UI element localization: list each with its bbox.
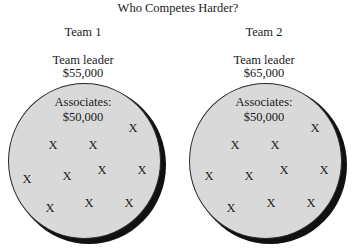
associate-marker: X [45, 202, 54, 214]
associate-marker: X [124, 197, 133, 209]
associate-marker: X [310, 122, 319, 134]
team-2-associates-salary: $50,000 [244, 110, 285, 125]
associate-marker: X [319, 164, 328, 176]
associate-marker: X [270, 139, 279, 151]
associate-marker: X [226, 202, 235, 214]
associate-marker: X [266, 197, 275, 209]
associate-marker: X [306, 197, 315, 209]
associate-marker: X [88, 139, 97, 151]
associate-marker: X [84, 197, 93, 209]
team-2-associates-label: Associates: [236, 95, 293, 110]
team-1-associates-salary: $50,000 [63, 110, 104, 125]
associate-marker: X [137, 164, 146, 176]
team-1-label: Team 1 [65, 25, 102, 40]
associate-marker: X [279, 164, 288, 176]
diagram-title: Who Competes Harder? [118, 1, 239, 16]
associate-marker: X [97, 164, 106, 176]
associate-marker: X [204, 170, 213, 182]
team-2-label: Team 2 [246, 25, 283, 40]
associate-marker: X [62, 170, 71, 182]
associate-marker: X [22, 173, 31, 185]
associate-marker: X [128, 122, 137, 134]
team-1-leader-salary: $55,000 [63, 67, 104, 80]
associate-marker: X [48, 139, 57, 151]
associate-marker: X [230, 139, 239, 151]
team-1-associates-label: Associates: [55, 95, 112, 110]
team-2-leader-salary: $65,000 [244, 67, 285, 80]
associate-marker: X [244, 170, 253, 182]
